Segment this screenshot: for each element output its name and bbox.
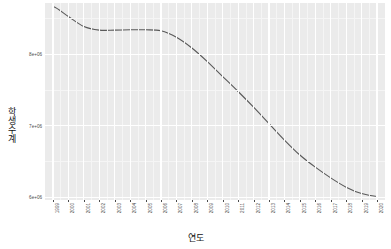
gridline-major-vertical xyxy=(315,3,316,200)
gridline-minor-vertical xyxy=(338,3,339,200)
gridline-minor-vertical xyxy=(199,3,200,200)
gridline-major-horizontal xyxy=(45,197,385,198)
x-axis-tick-mark xyxy=(269,200,270,202)
x-axis-tick-mark xyxy=(238,200,239,202)
x-axis-tick-label: 2001 xyxy=(86,203,91,213)
y-axis-ticks: 8e+067e+066e+06 xyxy=(18,0,42,249)
gridline-major-vertical xyxy=(68,3,69,200)
gridline-minor-vertical xyxy=(153,3,154,200)
x-axis-tick-label: 2019 xyxy=(364,203,369,213)
gridline-major-vertical xyxy=(130,3,131,200)
x-axis-tick-label: 2006 xyxy=(163,203,168,213)
gridline-minor-vertical xyxy=(76,3,77,200)
x-axis-tick-mark xyxy=(84,200,85,202)
gridline-minor-vertical xyxy=(184,3,185,200)
y-axis-title: 학생수계 xyxy=(4,0,18,249)
gridline-major-vertical xyxy=(299,3,300,200)
x-axis-tick-label: 2005 xyxy=(148,203,153,213)
gridline-minor-vertical xyxy=(60,3,61,200)
y-axis-tick-label: 7e+06 xyxy=(18,123,42,128)
gridline-minor-vertical xyxy=(292,3,293,200)
gridline-major-vertical xyxy=(160,3,161,200)
y-axis-tick-label: 6e+06 xyxy=(18,195,42,200)
x-axis-tick-label: 2011 xyxy=(240,203,245,213)
x-axis-tick-mark xyxy=(377,200,378,202)
x-axis-ticks: 1999200020012002200320042005200620072008… xyxy=(45,200,385,230)
gridline-minor-vertical xyxy=(246,3,247,200)
gridline-minor-vertical xyxy=(307,3,308,200)
x-axis-tick-label: 2004 xyxy=(132,203,137,213)
x-axis-tick-label: 2009 xyxy=(209,203,214,213)
x-axis-tick-mark xyxy=(331,200,332,202)
gridline-minor-vertical xyxy=(215,3,216,200)
gridline-major-vertical xyxy=(376,3,377,200)
x-axis-tick-label: 2012 xyxy=(256,203,261,213)
gridline-major-horizontal xyxy=(45,54,385,55)
gridline-major-vertical xyxy=(238,3,239,200)
x-axis-tick-label: 1999 xyxy=(55,203,60,213)
gridline-minor-vertical xyxy=(91,3,92,200)
gridline-major-vertical xyxy=(253,3,254,200)
x-axis-tick-mark xyxy=(115,200,116,202)
x-axis-tick-label: 2013 xyxy=(271,203,276,213)
y-axis-tick-label: 8e+06 xyxy=(18,52,42,57)
x-axis-tick-mark xyxy=(362,200,363,202)
x-axis-tick-mark xyxy=(223,200,224,202)
x-axis-tick-mark xyxy=(161,200,162,202)
gridline-minor-vertical xyxy=(276,3,277,200)
gridline-minor-vertical xyxy=(107,3,108,200)
gridline-minor-vertical xyxy=(230,3,231,200)
gridline-major-vertical xyxy=(268,3,269,200)
x-axis-tick-mark xyxy=(146,200,147,202)
x-axis-tick-mark xyxy=(68,200,69,202)
x-axis-tick-mark xyxy=(53,200,54,202)
x-axis-tick-label: 2003 xyxy=(117,203,122,213)
x-axis-tick-mark xyxy=(130,200,131,202)
x-axis-tick-label: 2018 xyxy=(348,203,353,213)
x-axis-tick-label: 2014 xyxy=(286,203,291,213)
x-axis-tick-mark xyxy=(207,200,208,202)
x-axis-tick-label: 2015 xyxy=(302,203,307,213)
x-axis-tick-label: 2010 xyxy=(225,203,230,213)
x-axis-tick-mark xyxy=(300,200,301,202)
x-axis-tick-label: 2016 xyxy=(317,203,322,213)
x-axis-tick-mark xyxy=(284,200,285,202)
x-axis-tick-mark xyxy=(346,200,347,202)
x-axis-tick-label: 2020 xyxy=(379,203,384,213)
gridline-major-vertical xyxy=(99,3,100,200)
gridline-minor-vertical xyxy=(369,3,370,200)
gridline-major-horizontal xyxy=(45,125,385,126)
y-axis-title-text: 학생수계 xyxy=(6,107,16,143)
x-axis-tick-mark xyxy=(99,200,100,202)
gridline-minor-vertical xyxy=(323,3,324,200)
chart-container: 학생수계 8e+067e+066e+06 1999200020012002200… xyxy=(0,0,391,249)
plot-panel xyxy=(45,3,385,200)
x-axis-tick-label: 2002 xyxy=(101,203,106,213)
x-axis-title: 연도 xyxy=(0,231,391,244)
x-axis-tick-label: 2000 xyxy=(70,203,75,213)
gridline-major-vertical xyxy=(207,3,208,200)
x-axis-tick-label: 2008 xyxy=(194,203,199,213)
x-axis-tick-mark xyxy=(176,200,177,202)
gridline-minor-vertical xyxy=(261,3,262,200)
gridline-major-vertical xyxy=(191,3,192,200)
gridline-minor-vertical xyxy=(354,3,355,200)
gridline-major-vertical xyxy=(361,3,362,200)
gridline-major-vertical xyxy=(222,3,223,200)
x-axis-tick-label: 2017 xyxy=(333,203,338,213)
gridline-minor-vertical xyxy=(122,3,123,200)
gridline-major-vertical xyxy=(52,3,53,200)
gridline-minor-vertical xyxy=(168,3,169,200)
x-axis-tick-mark xyxy=(192,200,193,202)
gridline-minor-vertical xyxy=(138,3,139,200)
x-axis-tick-mark xyxy=(254,200,255,202)
gridline-major-vertical xyxy=(83,3,84,200)
gridline-major-vertical xyxy=(114,3,115,200)
gridline-major-vertical xyxy=(284,3,285,200)
gridline-major-vertical xyxy=(330,3,331,200)
gridline-major-vertical xyxy=(176,3,177,200)
x-axis-tick-label: 2007 xyxy=(178,203,183,213)
gridline-major-vertical xyxy=(145,3,146,200)
gridline-major-vertical xyxy=(346,3,347,200)
x-axis-tick-mark xyxy=(315,200,316,202)
